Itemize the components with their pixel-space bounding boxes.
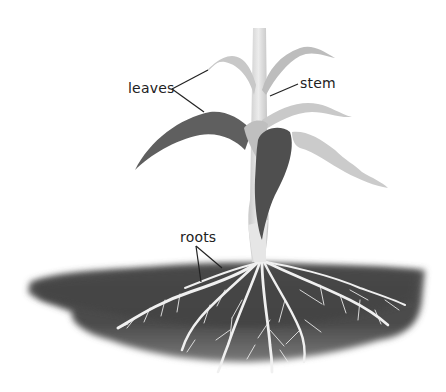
stem-label: stem [300,76,336,90]
roots-label: roots [180,230,216,244]
plant-illustration [0,0,446,392]
plant-diagram: leaves stem roots [0,0,446,392]
leaves-label: leaves [128,81,174,95]
stem-leader [270,84,298,96]
leaves-leader-lower [172,89,204,112]
leaves-leader-upper [172,70,208,89]
